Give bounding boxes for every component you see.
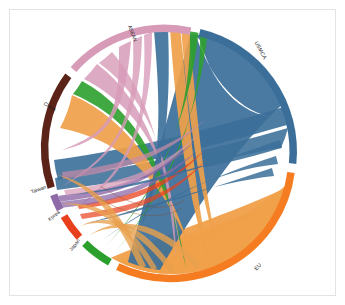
arc-label-taiwan: Taiwan bbox=[30, 184, 47, 195]
arc-label-japan: Japan bbox=[68, 237, 81, 252]
chord-diagram-canvas: USMCA EU Japan Korea Taiwan China ASEAN bbox=[0, 0, 345, 305]
chord-diagram-figure: USMCA EU Japan Korea Taiwan China ASEAN bbox=[0, 0, 345, 305]
arc-label-korea: Korea bbox=[47, 209, 62, 222]
arc-japan[interactable] bbox=[85, 243, 110, 262]
arc-label-usmca: USMCA bbox=[254, 40, 269, 60]
arc-label-eu: EU bbox=[253, 262, 263, 272]
arc-korea[interactable] bbox=[64, 216, 79, 237]
